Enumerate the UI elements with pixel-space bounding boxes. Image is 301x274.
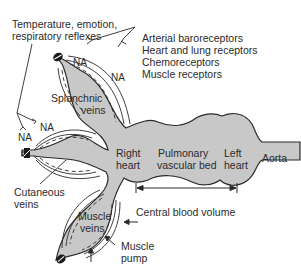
na-label-receptor: NA	[111, 72, 125, 84]
pulmonary-label-line1: Pulmonary	[158, 147, 208, 159]
reflexes-label-line1: Temperature, emotion,	[12, 18, 117, 30]
aorta-label: Aorta	[262, 152, 287, 164]
left-heart-label-line2: heart	[224, 159, 248, 171]
muscle-veins-label-line2: veins	[80, 222, 105, 234]
right-heart-label-line1: Right	[116, 147, 141, 159]
receptor-arterial-baroreceptors: Arterial baroreceptors	[142, 32, 243, 44]
muscle-pump-label-line1: Muscle	[121, 240, 154, 252]
receptor-muscle: Muscle receptors	[142, 68, 222, 80]
receptor-chemoreceptors: Chemoreceptors	[142, 56, 220, 68]
muscle-pump-label-line2: pump	[121, 252, 147, 264]
left-heart-label-line1: Left	[224, 147, 242, 159]
splanchnic-veins-label-line1: Splanchnic	[51, 92, 102, 104]
na-label-cutaneous: NA	[18, 132, 32, 144]
reflexes-label-line2: respiratory reflexes	[12, 30, 101, 42]
receptor-heart-lung: Heart and lung receptors	[142, 44, 258, 56]
right-heart-label-line2: heart	[116, 159, 140, 171]
muscle-veins-label-line1: Muscle	[78, 210, 111, 222]
cutaneous-veins-label-line2: veins	[14, 198, 39, 210]
central-blood-volume-arrow	[136, 183, 237, 193]
na-label-reflex: NA	[40, 122, 54, 134]
central-blood-volume-label: Central blood volume	[136, 206, 235, 218]
cutaneous-veins-label-line1: Cutaneous	[14, 186, 65, 198]
na-label-splanchnic: NA	[73, 57, 87, 69]
pulmonary-label-line2: vascular bed	[157, 159, 217, 171]
splanchnic-veins-label-line2: veins	[81, 104, 106, 116]
